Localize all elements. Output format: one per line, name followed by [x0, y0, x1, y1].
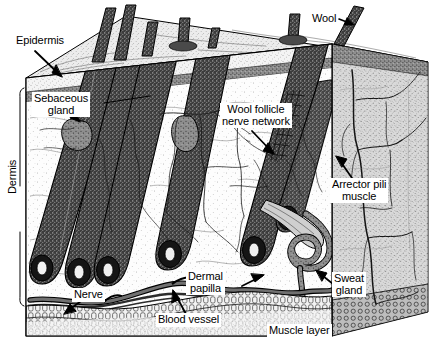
label-sebaceous-gland-line2: gland [48, 104, 74, 116]
label-sweat-gland-line1: Sweat [334, 272, 364, 284]
label-epidermis: Epidermis [14, 34, 66, 48]
sebaceous-gland [172, 116, 199, 152]
label-arrector-pili-muscle: Arrector pili muscle [330, 178, 388, 203]
label-dermal-papilla-line2: papilla [190, 282, 221, 294]
label-dermal-papilla-line1: Dermal [188, 270, 223, 282]
wool-fibre [279, 14, 307, 45]
label-sebaceous-gland: Sebaceous gland [32, 92, 90, 117]
label-dermal-papilla: Dermal papilla [186, 270, 225, 295]
label-wool-follicle-nerve-network-line2: nerve network [222, 115, 290, 127]
label-nerve: Nerve [72, 288, 105, 302]
label-sebaceous-gland-line1: Sebaceous [34, 92, 88, 104]
label-blood-vessel: Blood vessel [156, 313, 221, 327]
sebaceous-gland [62, 119, 92, 150]
label-muscle-layer: Muscle layer [267, 324, 332, 338]
label-wool: Wool [310, 12, 338, 26]
wool-fibre-labelled [334, 6, 364, 46]
bracket-dermis [20, 88, 24, 306]
label-dermis: Dermis [7, 158, 19, 196]
label-arrector-pili-muscle-line1: Arrector pili [332, 178, 386, 190]
wool-follicle-skin-diagram: Epidermis Sebaceous gland Dermis Wool Wo… [0, 0, 440, 355]
label-sweat-gland-line2: gland [336, 284, 362, 296]
label-wool-follicle-nerve-network-line1: Wool follicle [227, 103, 284, 115]
label-sweat-gland: Sweat gland [332, 272, 366, 297]
label-wool-follicle-nerve-network: Wool follicle nerve network [220, 103, 292, 128]
label-arrector-pili-muscle-line2: muscle [342, 190, 376, 202]
